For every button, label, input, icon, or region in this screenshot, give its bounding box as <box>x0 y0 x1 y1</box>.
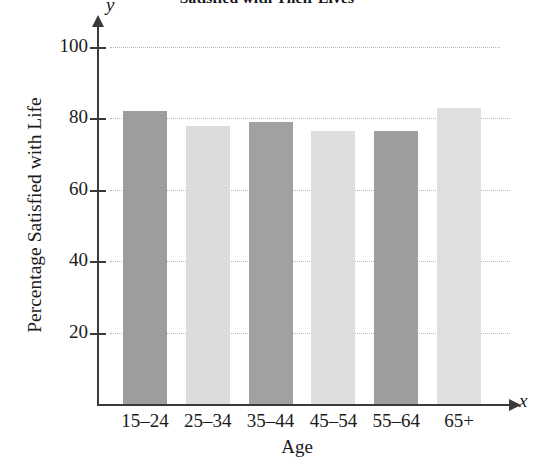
y-tick-mark <box>90 333 106 335</box>
chart-figure: Satisfied with Their Lives Percentage Sa… <box>0 0 534 463</box>
gridline <box>110 47 500 48</box>
y-tick-mark <box>90 118 106 120</box>
y-axis-arrow-icon <box>92 15 104 27</box>
bar <box>249 122 293 404</box>
y-tick-label: 80 <box>42 106 88 128</box>
x-tick-label: 65+ <box>419 410 499 432</box>
x-axis-letter: x <box>519 390 527 412</box>
y-tick-label: 20 <box>42 321 88 343</box>
y-tick-label: 40 <box>42 249 88 271</box>
bar <box>186 126 230 404</box>
bar <box>374 131 418 404</box>
y-tick-mark <box>90 47 106 49</box>
x-axis-title: Age <box>0 436 534 458</box>
y-tick-label: 60 <box>42 178 88 200</box>
bar <box>437 108 481 404</box>
y-tick-label: 100 <box>42 35 88 57</box>
chart-title: Satisfied with Their Lives <box>0 0 534 7</box>
bar <box>311 131 355 404</box>
y-tick-mark <box>90 190 106 192</box>
y-tick-mark <box>90 261 106 263</box>
x-axis-line <box>97 404 512 406</box>
bar <box>123 111 167 404</box>
y-axis-letter: y <box>106 0 114 16</box>
y-axis-line <box>97 25 99 406</box>
